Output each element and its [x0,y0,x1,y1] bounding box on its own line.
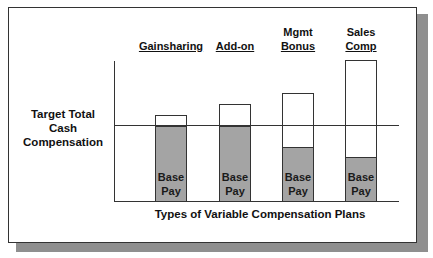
base-label: Base [285,170,311,184]
plan-label-line: Bonus [270,39,326,53]
plan-label-sales-comp: Sales Comp [333,25,389,53]
plan-label-line: Mgmt [270,25,326,39]
x-axis-label: Types of Variable Compensation Plans [130,207,390,221]
plan-label-line: Add-on [205,39,265,53]
base-label: Pay [351,184,371,198]
base-label: Base [348,170,374,184]
bar-add-on-variable [219,104,251,127]
y-label-line: Target Total [18,107,108,121]
plan-label-line: Gainsharing [137,39,205,53]
plan-label-mgmt-bonus: Mgmt Bonus [270,25,326,53]
bar-add-on-base: Base Pay [219,126,251,202]
base-label: Base [222,170,248,184]
plan-label-line: Comp [333,39,389,53]
x-axis-baseline [114,201,399,202]
base-label: Pay [225,184,245,198]
bar-sales-comp-base: Base Pay [345,157,377,202]
bar-mgmt-bonus-variable [282,93,314,148]
base-label: Pay [288,184,308,198]
y-label-line: Cash [18,121,108,135]
bar-gainsharing-base: Base Pay [155,126,187,202]
base-label: Pay [161,184,181,198]
bar-mgmt-bonus-base: Base Pay [282,147,314,202]
y-axis-line [114,61,115,201]
bar-sales-comp-variable [345,60,377,158]
base-label: Base [158,170,184,184]
target-total-cash-line [114,125,399,126]
y-axis-label: Target Total Cash Compensation [18,107,108,149]
plan-label-line: Sales [333,25,389,39]
y-label-line: Compensation [18,135,108,149]
plan-label-gainsharing: Gainsharing [137,39,205,53]
plan-label-add-on: Add-on [205,39,265,53]
